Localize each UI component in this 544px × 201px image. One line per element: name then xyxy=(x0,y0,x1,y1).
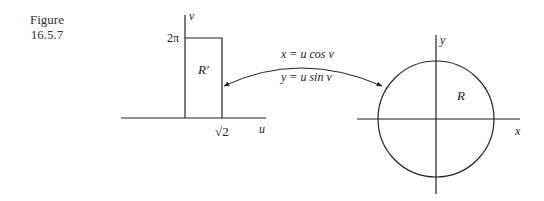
region-r-prime-label: R′ xyxy=(197,62,209,77)
region-r-label: R xyxy=(456,88,465,103)
two-pi-tick-label: 2π xyxy=(167,31,179,45)
diagram-canvas: v 2π R′ √2 u x = u cos v y = u sin v y R… xyxy=(0,0,544,201)
equation-y: y = u sin v xyxy=(280,70,332,84)
sqrt2-tick-label: √2 xyxy=(215,124,229,139)
uv-plane: v 2π R′ √2 u xyxy=(121,9,266,139)
xy-plane: y R x xyxy=(357,33,521,194)
region-r-prime-boundary xyxy=(185,38,222,118)
y-axis-label: y xyxy=(439,33,446,47)
x-axis-label: x xyxy=(514,124,521,138)
u-axis-label: u xyxy=(259,122,265,136)
transform-mapping: x = u cos v y = u sin v xyxy=(224,47,382,86)
equation-x: x = u cos v xyxy=(280,47,334,61)
v-axis-label: v xyxy=(189,9,195,23)
